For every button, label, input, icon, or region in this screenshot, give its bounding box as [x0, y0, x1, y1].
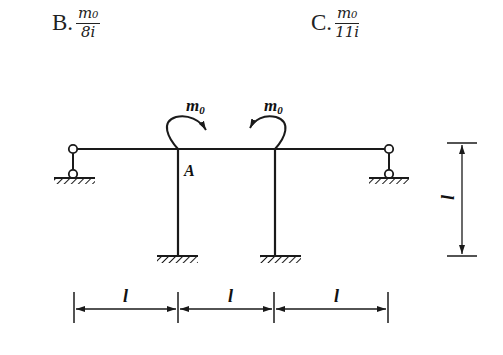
moment-right-label: m0: [264, 96, 283, 116]
column-right: [260, 149, 301, 263]
frame-diagram: m0 m0 A l l l l: [0, 0, 503, 355]
joint-label-a: A: [183, 162, 195, 179]
moment-right-icon: [250, 116, 285, 149]
dim-label-1: l: [123, 286, 128, 306]
dim-label-3: l: [334, 286, 339, 306]
vertical-dimension-label: l: [438, 195, 458, 200]
moment-left-icon: [167, 116, 206, 149]
dim-label-2: l: [228, 286, 233, 306]
left-pin-support: [54, 145, 95, 184]
moment-left-label: m0: [186, 96, 205, 116]
right-pin-support: [369, 145, 409, 184]
